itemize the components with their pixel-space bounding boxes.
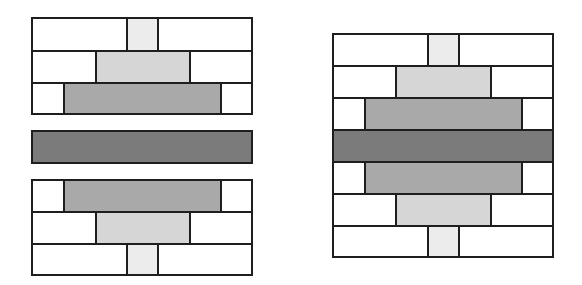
left-top-row2-right: [189, 50, 253, 84]
right-row2-left: [332, 65, 397, 99]
left-bottom-row3-right: [157, 243, 253, 276]
left-bottom-row2-left: [31, 211, 97, 245]
left-top-row3-left: [31, 82, 65, 115]
right-row5-center: [364, 161, 523, 195]
left-top-row1-right: [157, 17, 253, 52]
left-top-row1-left: [31, 17, 128, 52]
right-row7-right: [458, 225, 554, 258]
left-top-row2-left: [31, 50, 97, 84]
right-row1-center: [427, 33, 460, 67]
right-row2-right: [490, 65, 554, 99]
right-row6-right: [490, 193, 554, 227]
left-top-row2-center: [95, 50, 191, 84]
left-top-row3-right: [220, 82, 253, 115]
right-row1-left: [332, 33, 429, 67]
right-row5-left: [332, 161, 366, 195]
left-bottom-row1-left: [31, 179, 65, 213]
right-row7-center: [427, 225, 460, 258]
left-bottom-row2-center: [95, 211, 191, 245]
right-row4-dark-band: [332, 129, 554, 163]
left-top-row3-center: [63, 82, 222, 115]
right-row3-left: [332, 97, 366, 131]
right-row3-center: [364, 97, 523, 131]
left-bottom-row2-right: [189, 211, 253, 245]
right-row7-left: [332, 225, 429, 258]
right-row3-right: [521, 97, 554, 131]
left-bottom-row1-right: [220, 179, 253, 213]
left-top-row1-center: [126, 17, 159, 52]
left-bottom-row3-left: [31, 243, 128, 276]
right-row5-right: [521, 161, 554, 195]
right-row6-left: [332, 193, 397, 227]
left-middle-bar: [31, 130, 253, 164]
right-row2-center: [395, 65, 492, 99]
right-row6-center: [395, 193, 492, 227]
left-bottom-row3-center: [126, 243, 159, 276]
right-row1-right: [458, 33, 554, 67]
left-bottom-row1-center: [63, 179, 222, 213]
